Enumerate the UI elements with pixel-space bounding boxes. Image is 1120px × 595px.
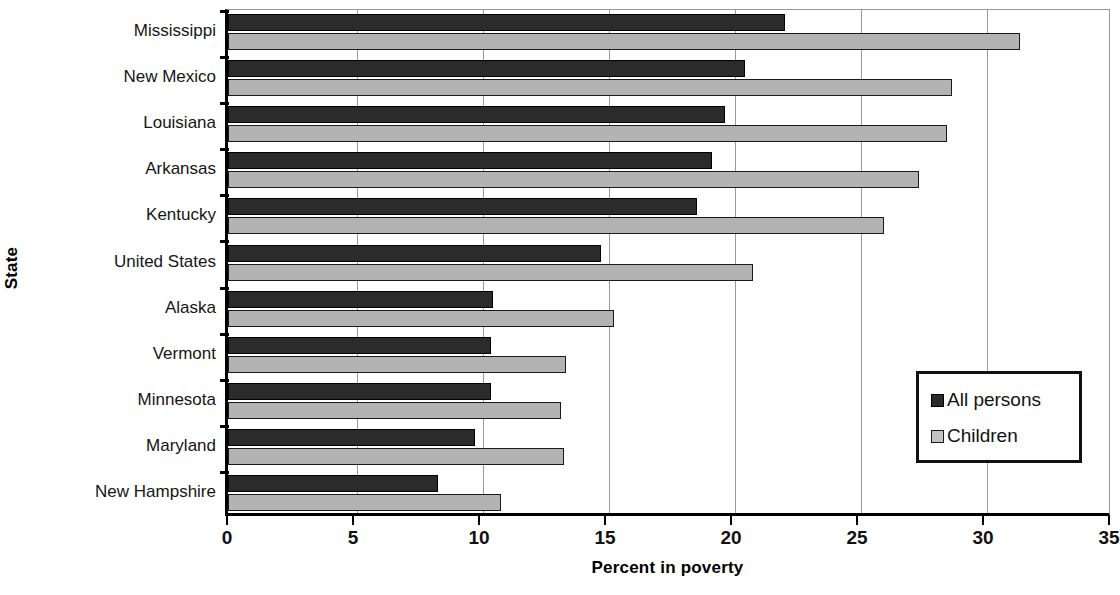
legend-item-all-persons: All persons: [931, 382, 1079, 418]
y-axis-tick: [220, 194, 229, 197]
bar: [228, 14, 785, 31]
x-axis-tick-label: 0: [222, 527, 233, 549]
y-axis-tick: [220, 10, 229, 13]
x-axis-tick-label: 20: [720, 527, 741, 549]
x-axis-tick: [604, 516, 606, 525]
bar: [228, 152, 712, 169]
x-axis-tick: [478, 516, 480, 525]
bar: [228, 310, 614, 327]
x-axis-tick-label: 30: [972, 527, 993, 549]
y-axis-tick-label: Minnesota: [0, 390, 216, 410]
x-axis-tick-label: 15: [594, 527, 615, 549]
y-axis-tick: [220, 379, 229, 382]
bar: [228, 106, 725, 123]
y-axis-tick-label: Alaska: [0, 298, 216, 318]
bar: [228, 291, 493, 308]
y-axis-tick-label: Louisiana: [0, 113, 216, 133]
x-axis-tick-label: 5: [348, 527, 359, 549]
legend-label: Children: [947, 425, 1018, 447]
bar: [228, 383, 491, 400]
bar: [228, 198, 697, 215]
y-axis-tick-label: Mississippi: [0, 21, 216, 41]
legend-label: All persons: [947, 389, 1041, 411]
y-axis-tick: [220, 425, 229, 428]
x-axis-tick: [1108, 516, 1110, 525]
light-square-swatch-icon: [931, 430, 944, 443]
x-axis-tick: [226, 516, 228, 525]
y-axis-tick-label: Arkansas: [0, 159, 216, 179]
x-axis-tick-label: 10: [468, 527, 489, 549]
bar: [228, 402, 561, 419]
bar: [228, 429, 475, 446]
bar: [228, 79, 952, 96]
y-axis-tick-label: New Hampshire: [0, 482, 216, 502]
bar: [228, 171, 919, 188]
y-axis-tick: [220, 471, 229, 474]
y-axis-tick-label: New Mexico: [0, 67, 216, 87]
legend-item-children: Children: [931, 418, 1079, 454]
bar: [228, 494, 501, 511]
y-axis-tick: [220, 102, 229, 105]
y-axis-tick: [220, 333, 229, 336]
x-axis-tick: [982, 516, 984, 525]
bar: [228, 245, 601, 262]
x-axis-title: Percent in poverty: [225, 558, 1110, 578]
x-axis-tick-label: 25: [846, 527, 867, 549]
x-axis-tick: [730, 516, 732, 525]
bar: [228, 356, 566, 373]
x-axis-tick: [352, 516, 354, 525]
y-axis-tick-label: Vermont: [0, 344, 216, 364]
chart-legend: All persons Children: [916, 371, 1082, 463]
bar: [228, 475, 438, 492]
bar: [228, 448, 564, 465]
bar: [228, 337, 491, 354]
y-axis-tick-label: Maryland: [0, 436, 216, 456]
bar: [228, 264, 753, 281]
y-axis-tick: [220, 240, 229, 243]
x-axis-tick-label: 35: [1098, 527, 1119, 549]
bar: [228, 33, 1020, 50]
y-axis-tick-labels: MississippiNew MexicoLouisianaArkansasKe…: [0, 9, 216, 516]
y-axis-tick-label: Kentucky: [0, 205, 216, 225]
y-axis-tick-label: United States: [0, 252, 216, 272]
y-axis-tick: [220, 56, 229, 59]
dark-square-swatch-icon: [931, 394, 944, 407]
bar: [228, 125, 947, 142]
y-axis-tick: [220, 287, 229, 290]
bar: [228, 217, 884, 234]
y-axis-tick: [220, 148, 229, 151]
x-axis-tick: [856, 516, 858, 525]
bar: [228, 60, 745, 77]
